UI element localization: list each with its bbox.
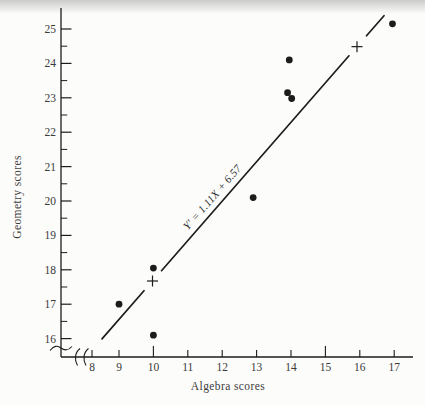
y-tick-label: 20 [45, 195, 57, 207]
x-tick-label: 14 [285, 361, 297, 373]
y-tick-label: 16 [45, 333, 57, 345]
y-tick-label: 24 [45, 57, 57, 69]
data-point [250, 194, 257, 201]
x-tick-label: 15 [320, 361, 332, 373]
data-point [389, 20, 396, 27]
data-point [288, 95, 295, 102]
x-tick-label: 8 [89, 361, 95, 373]
x-axis-title: Algebra scores [191, 380, 265, 392]
data-point [284, 89, 291, 96]
data-point [116, 301, 123, 308]
regression-line-segment [367, 16, 385, 36]
x-tick-label: 11 [182, 361, 193, 373]
x-tick-label: 10 [148, 361, 160, 373]
regression-line-segment [162, 56, 350, 271]
x-tick-label: 17 [388, 361, 400, 373]
data-point [150, 332, 157, 339]
data-point [150, 265, 157, 272]
y-axis-title: Geometry scores [11, 155, 23, 239]
y-tick-label: 21 [45, 161, 57, 173]
y-tick-label: 25 [45, 23, 57, 35]
x-tick-label: 12 [216, 361, 228, 373]
scatter-plot-figure: 16171819202122232425891011121314151617 G… [0, 0, 425, 405]
y-tick-label: 23 [45, 92, 57, 104]
x-tick-label: 13 [251, 361, 263, 373]
x-tick-label: 16 [354, 361, 366, 373]
data-point [286, 57, 293, 64]
y-tick-label: 22 [45, 126, 57, 138]
y-tick-label: 19 [45, 229, 57, 241]
regression-line-segment [102, 291, 144, 339]
y-tick-label: 17 [45, 298, 57, 310]
x-tick-label: 9 [116, 361, 122, 373]
y-tick-label: 18 [45, 264, 57, 276]
